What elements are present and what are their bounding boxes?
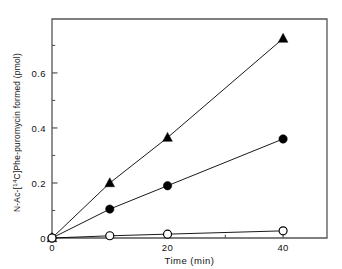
x-tick-labels: 02040 — [49, 242, 289, 253]
y-tick-label: 0.6 — [32, 68, 46, 79]
marker-filled-circle — [279, 135, 287, 143]
marker-open-circle — [106, 232, 114, 240]
plot-frame — [52, 19, 327, 238]
y-tick-labels: 00.20.40.6 — [32, 68, 46, 244]
x-tick-label: 0 — [49, 242, 55, 253]
y-axis-title-text: N-Ac-[14C]Phe-puromycin formed (pmol) — [11, 53, 22, 212]
y-axis-title: N-Ac-[14C]Phe-puromycin formed (pmol) — [11, 53, 22, 212]
marker-open-circle — [164, 230, 172, 238]
marker-open-circle — [48, 234, 56, 242]
x-axis-title-text: Time (min) — [164, 255, 214, 266]
axis-ticks — [52, 45, 283, 238]
plot-area: 02040 00.20.40.6 Time (min) N-Ac-[14C]Ph… — [0, 0, 342, 269]
marker-filled-triangle — [163, 132, 173, 141]
x-axis-title: Time (min) — [164, 255, 214, 266]
y-tick-label: 0.2 — [32, 178, 46, 189]
marker-open-circle — [279, 227, 287, 235]
marker-filled-triangle — [105, 178, 115, 187]
y-tick-label: 0 — [40, 233, 46, 244]
marker-filled-triangle — [278, 33, 288, 42]
x-tick-label: 20 — [162, 242, 173, 253]
y-tick-label: 0.4 — [32, 123, 46, 134]
axis-frame — [52, 19, 327, 238]
x-tick-label: 40 — [277, 242, 288, 253]
marker-filled-circle — [163, 182, 171, 190]
figure-panel: 02040 00.20.40.6 Time (min) N-Ac-[14C]Ph… — [0, 0, 342, 269]
marker-filled-circle — [106, 205, 114, 213]
data-series-group — [47, 33, 288, 242]
